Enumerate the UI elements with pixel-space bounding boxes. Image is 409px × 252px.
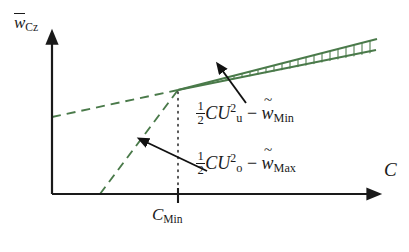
subscript-max: Max	[274, 161, 296, 175]
w-tilde: w	[262, 104, 274, 122]
x-axis-label: C	[384, 160, 397, 179]
figure-canvas: wCz C CMin 12CU2u − wMin 12CU2o − wMax	[0, 0, 409, 252]
cmin-base: C	[152, 205, 163, 224]
series-upper-dashed	[52, 90, 178, 117]
fraction-numerator: 1	[196, 100, 205, 113]
y-axis-label-subscript: Cz	[25, 21, 38, 34]
fraction-one-half: 12	[196, 100, 205, 127]
fraction-one-half: 12	[196, 150, 205, 177]
series-lower-solid	[178, 39, 377, 90]
term-cu: CU	[205, 103, 230, 123]
series-upper-solid	[178, 50, 376, 90]
subscript-min: Min	[274, 111, 294, 125]
subscript-u: u	[236, 111, 242, 125]
annotation-lower-bound: 12CU2o − wMax	[196, 150, 296, 177]
annotation-upper-bound: 12CU2u − wMin	[196, 100, 294, 127]
w-tilde: w	[262, 154, 274, 172]
minus-sign: −	[247, 153, 257, 173]
minus-sign: −	[247, 103, 257, 123]
series-lower-dashed	[100, 90, 178, 194]
term-cu: CU	[205, 153, 230, 173]
subscript-o: o	[236, 161, 242, 175]
y-axis-label-base: w	[14, 14, 25, 31]
fraction-denominator: 2	[196, 163, 205, 177]
fraction-numerator: 1	[196, 150, 205, 163]
fraction-denominator: 2	[196, 113, 205, 127]
cmin-subscript: Min	[163, 213, 182, 226]
y-axis-label: wCz	[14, 14, 38, 34]
x-tick-label-cmin: CMin	[152, 206, 183, 226]
